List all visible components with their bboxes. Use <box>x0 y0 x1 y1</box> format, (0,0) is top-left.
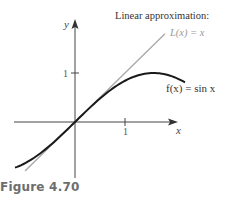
title-label: Linear approximation: <box>115 10 209 21</box>
line-label: L(x) = x <box>169 27 205 39</box>
figure-caption: Figure 4.70 <box>0 180 80 194</box>
x-axis-label: x <box>175 124 181 136</box>
x-tick-label: 1 <box>123 126 128 137</box>
curve-label: f(x) = sin x <box>166 82 216 95</box>
y-tick-label: 1 <box>63 68 68 79</box>
figure-root: y x 1 1 Linear approximation: L(x) = x f… <box>0 0 233 199</box>
y-axis-label: y <box>63 18 69 30</box>
plot-area: y x 1 1 Linear approximation: L(x) = x f… <box>0 0 233 199</box>
sin-curve <box>15 73 185 168</box>
